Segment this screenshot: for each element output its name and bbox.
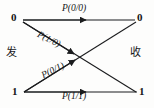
receive-side-label: 收 xyxy=(130,47,141,58)
edge-label-11: P(1/1) xyxy=(62,92,86,102)
transmit-side-label: 发 xyxy=(6,47,17,58)
node-transmit-0: 0 xyxy=(11,12,17,23)
node-receive-1: 1 xyxy=(139,86,145,97)
node-transmit-1: 1 xyxy=(12,86,18,97)
edge-label-00: P(0/0) xyxy=(62,4,86,14)
channel-diagram-canvas: 0 1 0 1 发 收 P(0/0) P(1/0) P(0/1) P(1/1) xyxy=(0,0,154,108)
node-receive-0: 0 xyxy=(137,12,143,23)
